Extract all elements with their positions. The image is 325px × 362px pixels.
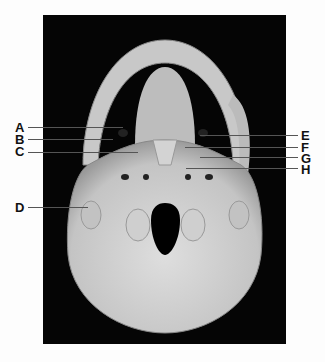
- label-d: D: [15, 201, 24, 214]
- leader-line-h: [186, 168, 298, 169]
- leader-line-c: [28, 152, 138, 153]
- leader-line-f: [185, 147, 298, 148]
- leader-line-g: [200, 157, 298, 158]
- leader-line-d: [28, 207, 88, 208]
- leader-line-e: [200, 135, 298, 136]
- skull-illustration: [43, 15, 286, 344]
- leader-line-a: [28, 127, 123, 128]
- leader-line-b: [28, 139, 113, 140]
- label-h: H: [301, 163, 310, 176]
- skull-photo: [43, 15, 286, 344]
- label-c: C: [15, 145, 24, 158]
